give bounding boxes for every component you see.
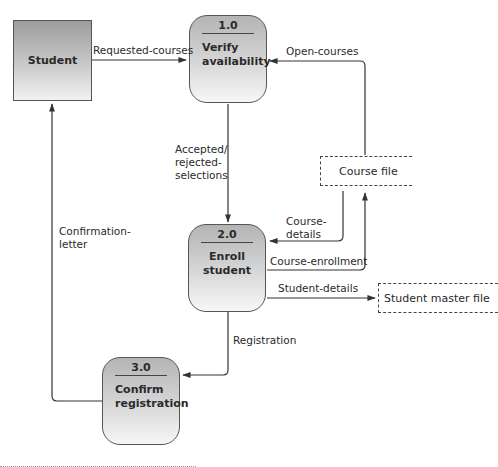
data-store-course-file[interactable]: Course file (320, 156, 412, 186)
data-store-label: Student master file (384, 292, 490, 305)
flow-label-accepted-rejected: Accepted/ rejected- selections (175, 143, 228, 182)
process-verify-availability[interactable]: 1.0 Verify availability (189, 15, 267, 103)
flow-confirmation-letter-arrow (52, 104, 102, 401)
process-number: 2.0 (189, 228, 265, 241)
process-divider (202, 33, 254, 34)
external-entity-student[interactable]: Student (13, 20, 92, 101)
flow-label-course-details: Course- details (286, 215, 326, 241)
process-enroll-student[interactable]: 2.0 Enroll student (188, 224, 266, 312)
process-number: 3.0 (103, 361, 179, 374)
process-divider (115, 375, 167, 376)
process-name: Enroll student (189, 250, 265, 278)
flow-label-student-details: Student-details (278, 282, 358, 295)
flow-label-open-courses: Open-courses (286, 45, 358, 58)
flow-label-registration: Registration (233, 334, 296, 347)
flow-open-courses-arrow (270, 61, 365, 155)
process-divider (201, 242, 253, 243)
process-name: Verify availability (202, 41, 262, 69)
process-name: Confirm registration (115, 383, 175, 411)
flow-label-course-enrollment: Course-enrollment (270, 255, 367, 268)
flow-registration-arrow (183, 310, 228, 375)
process-confirm-registration[interactable]: 3.0 Confirm registration (102, 357, 180, 445)
data-store-student-master-file[interactable]: Student master file (378, 283, 498, 313)
entity-label: Student (28, 54, 77, 67)
data-store-label: Course file (339, 165, 398, 178)
flow-label-requested-courses: Requested-courses (93, 44, 193, 57)
flow-label-confirmation-letter: Confirmation- letter (59, 225, 131, 251)
process-number: 1.0 (190, 19, 266, 32)
